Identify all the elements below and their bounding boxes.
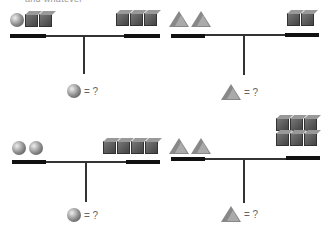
ball-icon: [10, 13, 24, 27]
left-pan-items: [10, 13, 52, 27]
ball-icon: [67, 84, 81, 98]
right-pan-items: [276, 118, 317, 146]
cube-icon: [145, 141, 158, 154]
right-pan: [286, 156, 320, 160]
triangle-icon: [169, 138, 189, 154]
balance-beam: [46, 35, 124, 37]
right-pan-items: [116, 13, 157, 26]
right-pan: [285, 33, 319, 37]
balance-post: [243, 35, 245, 75]
cube-icon: [25, 14, 38, 27]
right-pan: [126, 160, 160, 164]
left-pan: [10, 34, 46, 38]
balance-panel-bottom-right: = ?: [166, 118, 332, 236]
triangle-icon: [221, 206, 241, 222]
cube-icon: [116, 13, 129, 26]
balance-panel-top-right: = ?: [166, 0, 332, 118]
right-pan-items: [103, 141, 158, 154]
question-triangle: = ?: [221, 84, 258, 100]
question-text: = ?: [84, 210, 98, 221]
balance-post: [83, 36, 85, 74]
cube-icon: [39, 14, 52, 27]
cube-icon: [131, 141, 144, 154]
balance-panel-bottom-left: = ?: [0, 118, 166, 236]
triangle-icon: [191, 138, 211, 154]
cube-stack: [276, 118, 317, 146]
ball-icon: [12, 141, 26, 155]
right-pan-items: [287, 13, 314, 26]
left-pan-items: [169, 138, 211, 154]
question-ball: = ?: [67, 208, 98, 222]
question-text: = ?: [244, 87, 258, 98]
balance-beam: [205, 34, 285, 36]
balance-panel-top-left: = ?: [0, 0, 166, 118]
question-text: = ?: [84, 86, 98, 97]
left-pan: [12, 160, 46, 164]
triangle-icon: [169, 11, 189, 27]
question-text: = ?: [244, 209, 258, 220]
balance-post: [243, 159, 245, 203]
left-pan-items: [12, 141, 43, 155]
cube-icon: [276, 133, 289, 146]
triangle-icon: [221, 84, 241, 100]
cube-icon: [304, 133, 317, 146]
left-pan: [171, 157, 205, 161]
cube-icon: [130, 13, 143, 26]
left-pan-items: [169, 11, 211, 27]
question-ball: = ?: [67, 84, 98, 98]
cube-icon: [301, 13, 314, 26]
right-pan: [124, 34, 160, 38]
ball-icon: [67, 208, 81, 222]
cube-icon: [290, 133, 303, 146]
cube-icon: [144, 13, 157, 26]
cube-icon: [117, 141, 130, 154]
cube-icon: [103, 141, 116, 154]
left-pan: [171, 34, 205, 38]
cube-icon: [287, 13, 300, 26]
balance-beam: [205, 158, 286, 160]
ball-icon: [29, 141, 43, 155]
question-triangle: = ?: [221, 206, 258, 222]
triangle-icon: [191, 11, 211, 27]
balance-post: [85, 162, 87, 202]
